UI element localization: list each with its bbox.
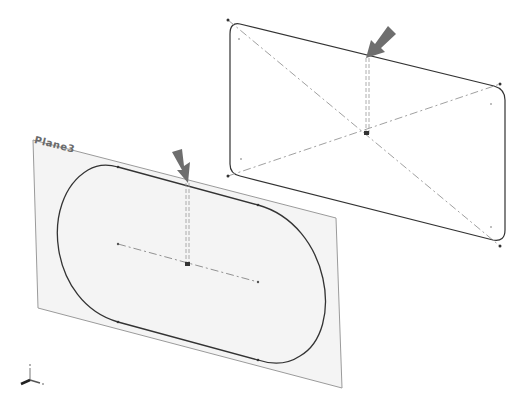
graphics-viewport[interactable]: [0, 0, 527, 406]
triad-icon: [21, 364, 44, 385]
rear-arrow-icon: [366, 26, 396, 58]
